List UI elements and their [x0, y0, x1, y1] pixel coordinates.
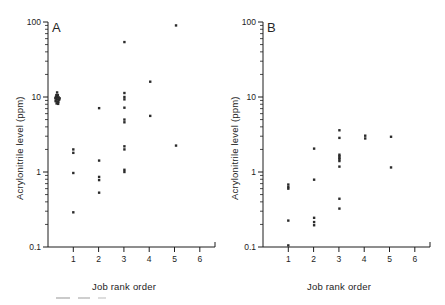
- panel-b-xtick-label: 6: [412, 254, 417, 264]
- panel-a-data-point: [98, 159, 100, 161]
- panel-a-xtick-label: 6: [197, 254, 202, 264]
- panel-a-xaxis-title: Job rank order: [92, 281, 156, 292]
- panel-a-data-point: [123, 145, 125, 147]
- panel-a: A 0.1110100123456 Job rank order Acrylon…: [0, 0, 222, 300]
- panel-a-xtick-label: 2: [96, 254, 101, 264]
- panel-b-ytick-label: 10: [247, 92, 257, 102]
- panel-b: B 0.1110100123456 Job rank order Acrylon…: [215, 0, 437, 300]
- panel-b-data-point: [313, 221, 315, 223]
- panel-b-data-point: [338, 129, 340, 131]
- panel-b-ytick-label: 1: [251, 167, 256, 177]
- panel-b-data-point: [390, 136, 392, 138]
- panel-a-xtick-label: 3: [122, 254, 127, 264]
- panel-b-plot: 0.1110100123456: [215, 0, 437, 270]
- panel-b-data-point: [364, 134, 366, 136]
- panel-a-xtick-label: 5: [172, 254, 177, 264]
- panel-b-xaxis-title: Job rank order: [307, 281, 371, 292]
- panel-a-data-point: [123, 96, 125, 98]
- panel-b-data-point: [313, 224, 315, 226]
- panel-a-data-point: [123, 148, 125, 150]
- panel-a-data-point: [72, 172, 74, 174]
- panel-b-data-point: [338, 207, 340, 209]
- figure-scatter-panels: A 0.1110100123456 Job rank order Acrylon…: [0, 0, 445, 305]
- panel-a-data-point: [123, 107, 125, 109]
- panel-a-data-point: [72, 211, 74, 213]
- panel-a-data-point: [72, 148, 74, 150]
- panel-b-data-point: [313, 217, 315, 219]
- panel-b-xtick-label: 3: [337, 254, 342, 264]
- panel-b-data-point: [287, 183, 289, 185]
- panel-a-xtick-label: 1: [71, 254, 76, 264]
- panel-a-data-point: [175, 144, 177, 146]
- panel-a-data-point: [98, 179, 100, 181]
- panel-b-yaxis-title: Acrylonitrile level (ppm): [229, 96, 240, 200]
- panel-a-data-point: [58, 97, 60, 99]
- panel-a-ytick-label: 10: [32, 92, 42, 102]
- panel-a-data-point: [72, 152, 74, 154]
- panel-a-plot: 0.1110100123456: [0, 0, 222, 270]
- panel-b-data-point: [338, 198, 340, 200]
- panel-a-data-point: [123, 41, 125, 43]
- panel-a-xtick-label: 4: [147, 254, 152, 264]
- panel-a-data-point: [149, 115, 151, 117]
- panel-a-data-point: [123, 92, 125, 94]
- panel-b-ytick-label: 100: [242, 17, 256, 27]
- panel-a-letter: A: [52, 20, 61, 35]
- panel-a-data-point: [123, 98, 125, 100]
- panel-a-data-point: [56, 91, 58, 93]
- panel-b-xtick-label: 4: [362, 254, 367, 264]
- panel-a-data-point: [123, 169, 125, 171]
- panel-a-data-point: [123, 118, 125, 120]
- panel-a-ytick-label: 0.1: [29, 242, 41, 252]
- panel-b-data-point: [390, 166, 392, 168]
- panel-a-data-point: [175, 24, 177, 26]
- panel-b-data-point: [338, 160, 340, 162]
- panel-b-xtick-label: 5: [387, 254, 392, 264]
- scan-artifact: [56, 297, 116, 299]
- panel-b-data-point: [364, 137, 366, 139]
- panel-a-data-point: [149, 80, 151, 82]
- panel-b-data-point: [287, 244, 289, 246]
- panel-b-data-point: [338, 165, 340, 167]
- panel-b-xtick-label: 1: [286, 254, 291, 264]
- panel-b-data-point: [287, 219, 289, 221]
- panel-b-ytick-label: 0.1: [244, 242, 256, 252]
- panel-b-data-point: [313, 147, 315, 149]
- panel-a-data-point: [98, 191, 100, 193]
- panel-b-data-point: [338, 137, 340, 139]
- panel-a-data-point: [123, 121, 125, 123]
- panel-a-data-point: [98, 176, 100, 178]
- panel-a-data-point: [54, 97, 56, 99]
- panel-a-data-point: [98, 107, 100, 109]
- panel-a-data-point: [123, 171, 125, 173]
- panel-b-data-point: [313, 178, 315, 180]
- panel-a-data-point: [57, 103, 59, 105]
- panel-b-data-point: [287, 187, 289, 189]
- panel-a-ytick-label: 1: [36, 167, 41, 177]
- panel-b-letter: B: [267, 20, 276, 35]
- panel-a-ytick-label: 100: [27, 17, 41, 27]
- panel-b-xtick-label: 2: [311, 254, 316, 264]
- panel-a-yaxis-title: Acrylonitrile level (ppm): [14, 96, 25, 200]
